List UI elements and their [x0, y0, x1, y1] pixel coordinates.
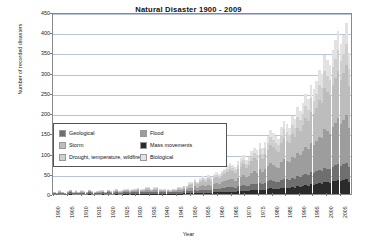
bar-segment — [348, 69, 351, 86]
x-tick-mark — [272, 193, 273, 196]
bar-segment — [348, 53, 351, 69]
y-tick-label: 0 — [30, 192, 50, 198]
x-tick-mark — [108, 193, 109, 196]
plot-area — [52, 13, 352, 195]
legend-swatch-icon — [59, 130, 66, 137]
legend-swatch-icon — [59, 142, 66, 149]
x-tick-label: 1900 — [55, 206, 61, 218]
x-tick-label: 1945 — [178, 206, 184, 218]
x-tick-mark — [312, 193, 313, 196]
x-tick-label: 1930 — [137, 206, 143, 218]
bar-segment — [348, 182, 351, 194]
y-tick-label: 450 — [30, 10, 50, 16]
legend-swatch-icon — [140, 142, 147, 149]
legend-item: Biological — [140, 151, 221, 163]
y-tick-label: 400 — [30, 30, 50, 36]
x-tick-label: 1970 — [246, 206, 252, 218]
legend-swatch-icon — [140, 130, 147, 137]
x-tick-label: 1990 — [301, 206, 307, 218]
x-tick-label: 1935 — [151, 206, 157, 218]
x-tick-mark — [231, 193, 232, 196]
legend-item: Mass movements — [140, 139, 221, 151]
x-tick-mark — [122, 193, 123, 196]
y-tick-label: 300 — [30, 71, 50, 77]
legend-label: Storm — [69, 142, 83, 148]
x-tick-mark — [67, 193, 68, 196]
y-tick-label: 150 — [30, 131, 50, 137]
x-tick-mark — [162, 193, 163, 196]
x-axis-ticks: 1900190519101915192019251930193519401945… — [52, 196, 352, 230]
x-tick-mark — [203, 193, 204, 196]
x-tick-label: 1925 — [124, 206, 130, 218]
x-tick-label: 2000 — [328, 206, 334, 218]
legend-label: Mass movements — [150, 142, 192, 148]
x-tick-label: 1960 — [219, 206, 225, 218]
y-tick-label: 350 — [30, 50, 50, 56]
legend-label: Biological — [150, 154, 173, 160]
x-tick-label: 1985 — [287, 206, 293, 218]
x-tick-mark — [135, 193, 136, 196]
x-tick-label: 1905 — [69, 206, 75, 218]
x-tick-mark — [340, 193, 341, 196]
y-tick-label: 200 — [30, 111, 50, 117]
x-tick-mark — [258, 193, 259, 196]
legend-item: Geological — [59, 127, 140, 139]
legend-label: Drought, temperature, wildfire — [69, 154, 140, 160]
legend-item: Flood — [140, 127, 221, 139]
x-axis-title: Year — [0, 231, 377, 237]
y-tick-label: 250 — [30, 91, 50, 97]
natural-disaster-chart: Natural Disaster 1900 - 2009 Number of r… — [0, 0, 377, 249]
legend-label: Flood — [150, 130, 164, 136]
x-tick-mark — [149, 193, 150, 196]
x-tick-label: 1915 — [96, 206, 102, 218]
x-tick-label: 1920 — [110, 206, 116, 218]
legend-item: Drought, temperature, wildfire — [59, 151, 140, 163]
legend-label: Geological — [69, 130, 94, 136]
y-tick-label: 100 — [30, 152, 50, 158]
x-tick-label: 1995 — [314, 206, 320, 218]
x-tick-mark — [285, 193, 286, 196]
x-tick-mark — [299, 193, 300, 196]
legend-swatch-icon — [59, 154, 66, 161]
x-tick-mark — [53, 193, 54, 196]
x-tick-mark — [217, 193, 218, 196]
chart-legend: GeologicalFloodStormMass movementsDrough… — [53, 123, 227, 167]
x-tick-label: 1950 — [192, 206, 198, 218]
legend-item: Storm — [59, 139, 140, 151]
x-tick-label: 1975 — [260, 206, 266, 218]
x-tick-mark — [176, 193, 177, 196]
x-tick-mark — [81, 193, 82, 196]
legend-swatch-icon — [140, 154, 147, 161]
x-tick-label: 1910 — [83, 206, 89, 218]
y-tick-label: 50 — [30, 172, 50, 178]
x-tick-mark — [326, 193, 327, 196]
bar-segment — [348, 86, 351, 128]
bar-series-container — [53, 14, 351, 194]
bar-segment — [348, 128, 351, 168]
bar-segment — [348, 167, 351, 182]
x-tick-label: 2005 — [342, 206, 348, 218]
x-tick-label: 1955 — [205, 206, 211, 218]
y-axis-title: Number of recorded disasters — [17, 0, 23, 119]
x-tick-mark — [190, 193, 191, 196]
y-axis-ticks: 450400350300250200150100500 — [28, 13, 50, 195]
x-tick-label: 1940 — [164, 206, 170, 218]
x-tick-mark — [94, 193, 95, 196]
x-tick-label: 1965 — [233, 206, 239, 218]
bar-column — [348, 14, 351, 194]
x-tick-mark — [244, 193, 245, 196]
x-tick-label: 1980 — [274, 206, 280, 218]
